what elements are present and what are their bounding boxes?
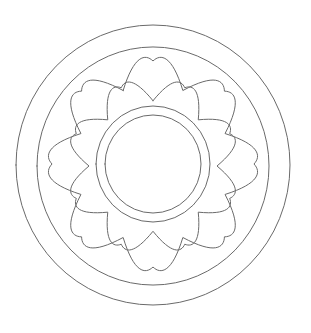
mandala-drawing bbox=[0, 0, 311, 333]
artboard bbox=[0, 0, 311, 333]
canvas-background bbox=[0, 0, 311, 333]
